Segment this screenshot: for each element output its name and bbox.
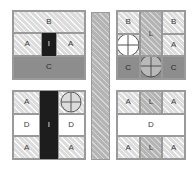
cell-top-right-b-right[interactable]: B — [162, 11, 185, 34]
panel-top-left[interactable]: B A I A C — [12, 10, 86, 80]
cell-bottom-right-d[interactable]: D — [117, 114, 185, 137]
cell-label: I — [48, 121, 50, 129]
diagram-root: B A I A C A I — [0, 0, 196, 175]
cell-label: L — [149, 144, 154, 152]
panel-bottom-right[interactable]: A L A D A L A — [116, 90, 186, 160]
cell-top-right-marker-cell[interactable] — [117, 34, 140, 57]
cell-top-left-a-right[interactable]: A — [56, 33, 85, 56]
crosshair-circle-icon — [60, 91, 82, 113]
cell-bottom-right-a-topright[interactable]: A — [162, 91, 185, 114]
cell-label: A — [171, 98, 177, 106]
cell-label: B — [171, 18, 177, 26]
cell-top-right-a[interactable]: A — [162, 34, 185, 57]
cell-label: I — [48, 40, 50, 48]
cell-label: A — [24, 144, 30, 152]
cell-top-right-c-left[interactable]: C — [117, 56, 140, 79]
cell-top-right-l[interactable]: L — [140, 11, 163, 56]
cell-label: A — [25, 40, 31, 48]
cell-label: D — [148, 121, 154, 129]
cell-bottom-left-d-right[interactable]: D — [58, 114, 85, 137]
panel-bottom-left[interactable]: A I D D A A — [12, 90, 86, 160]
cell-label: D — [68, 121, 74, 129]
cell-bottom-left-a-bottomright[interactable]: A — [58, 136, 85, 159]
cell-label: A — [68, 40, 74, 48]
cell-label: D — [24, 121, 30, 129]
cell-bottom-left-a-bottomleft[interactable]: A — [13, 136, 40, 159]
cell-bottom-right-l-top[interactable]: L — [140, 91, 163, 114]
cell-label: A — [171, 144, 177, 152]
cell-label: B — [126, 18, 132, 26]
cell-label: C — [46, 63, 52, 71]
cell-bottom-left-i[interactable]: I — [40, 91, 57, 159]
panel-top-right[interactable]: B L B A C C — [116, 10, 186, 80]
cell-label: L — [149, 98, 154, 106]
cell-label: A — [171, 41, 177, 49]
cell-top-left-c[interactable]: C — [13, 56, 85, 79]
center-divider-bar[interactable] — [91, 12, 110, 160]
cell-bottom-right-l-bottom[interactable]: L — [140, 136, 163, 159]
cell-bottom-left-d-left[interactable]: D — [13, 114, 40, 137]
cell-top-right-c-center[interactable]: C — [140, 56, 163, 79]
crosshair-circle-icon — [117, 34, 140, 57]
cell-top-left-b[interactable]: B — [13, 11, 85, 33]
cell-bottom-left-a-topleft[interactable]: A — [13, 91, 40, 114]
cell-label: C — [125, 64, 131, 72]
cell-top-right-b-left[interactable]: B — [117, 11, 140, 34]
cell-label: A — [126, 144, 132, 152]
cell-label: L — [149, 30, 154, 38]
cell-label: A — [126, 98, 132, 106]
cell-top-right-c-right[interactable]: C — [162, 56, 185, 79]
cell-label: B — [46, 18, 52, 26]
cell-label: A — [68, 144, 74, 152]
cell-bottom-right-a-topleft[interactable]: A — [117, 91, 140, 114]
cell-label: C — [171, 64, 177, 72]
cell-top-left-a-left[interactable]: A — [13, 33, 42, 56]
cell-top-left-i[interactable]: I — [42, 33, 57, 56]
cell-bottom-right-a-bottomright[interactable]: A — [162, 136, 185, 159]
cell-label: C — [148, 64, 154, 72]
cell-label: A — [24, 98, 30, 106]
cell-bottom-left-marker-cell[interactable] — [58, 91, 85, 114]
cell-bottom-right-a-bottomleft[interactable]: A — [117, 136, 140, 159]
